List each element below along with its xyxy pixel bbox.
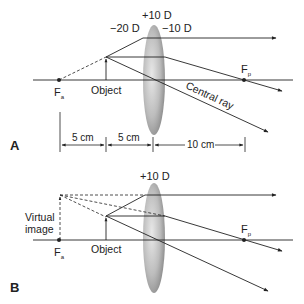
- dashed-ray-a: [59, 57, 106, 80]
- lens-power-label-b: +10 D: [140, 170, 170, 182]
- virtual-image-label-line1-b: Virtual: [25, 211, 55, 223]
- panel-label-b: B: [10, 280, 19, 295]
- lens-power-label-a: +10 D: [142, 9, 172, 21]
- central-ray-label-a: Central ray: [184, 79, 236, 112]
- dimension-label-3-a: 10 cm: [187, 139, 214, 150]
- panel-b: +10 D Object Virtual image Fa Fp B: [10, 170, 293, 295]
- focal-anterior-label-a: Fa: [54, 86, 65, 100]
- dashed-ray-b-3: [60, 195, 106, 217]
- object-label-a: Object: [91, 84, 121, 96]
- dimension-label-1-a: 5 cm: [72, 132, 94, 143]
- focal-posterior-sub-a: p: [248, 71, 252, 77]
- focal-point-posterior-b: [242, 238, 246, 242]
- panel-a: +10 D −20 D −10 D Object Fa Fp Central r…: [10, 9, 293, 153]
- focal-anterior-sub-a: a: [61, 94, 65, 100]
- optics-diagram: +10 D −20 D −10 D Object Fa Fp Central r…: [0, 0, 304, 304]
- focal-point-anterior-b: [57, 238, 61, 242]
- focal-posterior-label-b: Fp: [241, 223, 252, 237]
- focal-anterior-sub-b: a: [61, 254, 65, 260]
- dimension-label-2-a: 5 cm: [118, 132, 140, 143]
- ray-parallel-out-a: [106, 38, 276, 57]
- lens-power-right-label-a: −10 D: [162, 22, 192, 34]
- ray-through-fp-b: [106, 216, 282, 251]
- panel-label-a: A: [10, 138, 20, 153]
- focal-posterior-sub-b: p: [248, 231, 252, 237]
- object-label-b: Object: [91, 243, 121, 255]
- lens-power-left-label-a: −20 D: [110, 22, 140, 34]
- focal-point-anterior-a: [57, 78, 61, 82]
- focal-anterior-label-b: Fa: [54, 246, 65, 260]
- virtual-image-label-line2-b: image: [25, 223, 54, 235]
- focal-posterior-label-a: Fp: [241, 63, 252, 77]
- ray-parallel-out-b: [106, 195, 276, 216]
- focal-point-posterior-a: [242, 78, 246, 82]
